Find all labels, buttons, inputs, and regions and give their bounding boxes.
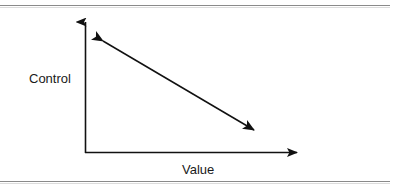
- relationship-diagram-figure: Control Value: [0, 0, 396, 192]
- inverse-relationship-arrow: [103, 41, 254, 130]
- y-axis-label: Control: [29, 71, 71, 86]
- x-axis-label: Value: [182, 162, 214, 177]
- diagram-canvas: Control Value: [0, 0, 396, 192]
